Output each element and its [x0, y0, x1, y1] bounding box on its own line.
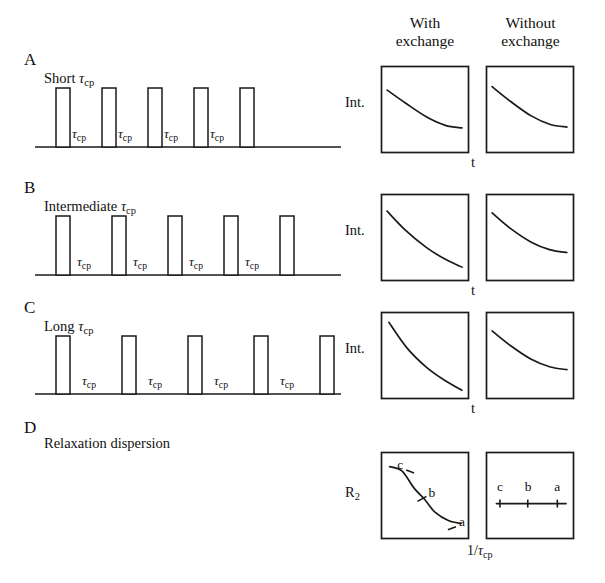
dispersion-marker-label-c: c: [497, 479, 503, 495]
tau-subscript: cp: [215, 132, 224, 143]
tau-cp-gap-label: τcp: [189, 254, 203, 271]
tau-subscript: cp: [285, 379, 294, 390]
plot-box-b-with: [382, 195, 469, 281]
pulse-rect: [280, 216, 294, 275]
tau-subscript: cp: [219, 379, 228, 390]
dispersion-marker-label-b: b: [525, 479, 532, 495]
tau-cp-gap-label: τcp: [118, 126, 132, 143]
pulse-rect: [112, 216, 126, 275]
tau-cp-gap-label: τcp: [280, 373, 294, 390]
pulse-rect: [56, 336, 70, 394]
pulse-rect: [240, 88, 254, 147]
pulse-rect: [102, 88, 116, 147]
pulse-rect: [254, 336, 268, 394]
tau-subscript: cp: [153, 379, 162, 390]
tau-subscript: cp: [77, 132, 86, 143]
tau-cp-gap-label: τcp: [210, 126, 224, 143]
pulse-rect: [148, 88, 162, 147]
dispersion-marker-label-b: b: [428, 485, 435, 501]
pulse-rect: [224, 216, 238, 275]
plot-box-b-without: [487, 195, 574, 281]
dispersion-marker-label-c: c: [397, 457, 403, 473]
tau-subscript: cp: [82, 260, 91, 271]
plot-box-c-without: [487, 313, 574, 399]
plot-box-c-with: [382, 313, 469, 399]
plot-box-a-with: [382, 67, 469, 153]
tau-subscript: cp: [250, 260, 259, 271]
pulse-rect: [122, 336, 136, 394]
tau-subscript: cp: [169, 132, 178, 143]
tau-subscript: cp: [194, 260, 203, 271]
tau-cp-gap-label: τcp: [164, 126, 178, 143]
dispersion-marker-label-a: a: [459, 514, 465, 530]
plot-boxes-group: [382, 67, 574, 539]
figure-root: With exchange Without exchange A B C D S…: [0, 0, 605, 583]
pulse-rect: [194, 88, 208, 147]
tau-cp-gap-label: τcp: [82, 373, 96, 390]
figure-vector-layer: [0, 0, 605, 583]
tau-cp-gap-label: τcp: [133, 254, 147, 271]
pulse-rect: [56, 88, 70, 147]
pulse-rect: [56, 216, 70, 275]
dispersion-marker-label-a: a: [554, 479, 560, 495]
tau-cp-gap-label: τcp: [148, 373, 162, 390]
plot-box-d-without: [487, 453, 574, 539]
tau-cp-gap-label: τcp: [245, 254, 259, 271]
tau-subscript: cp: [138, 260, 147, 271]
tau-cp-gap-label: τcp: [72, 126, 86, 143]
pulse-rect: [168, 216, 182, 275]
plot-box-a-without: [487, 67, 574, 153]
tau-cp-gap-label: τcp: [77, 254, 91, 271]
tau-subscript: cp: [87, 379, 96, 390]
tau-subscript: cp: [123, 132, 132, 143]
tau-cp-gap-label: τcp: [214, 373, 228, 390]
plot-box-d-with: [382, 453, 469, 539]
pulse-rect: [320, 336, 334, 394]
pulse-rect: [188, 336, 202, 394]
